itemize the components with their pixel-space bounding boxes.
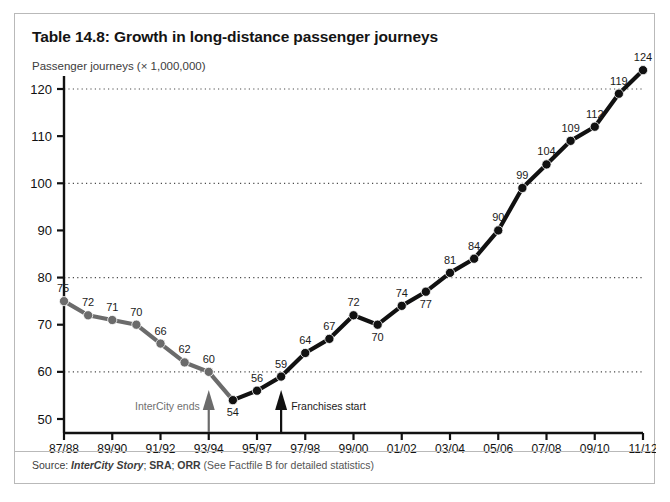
data-point[interactable] (132, 320, 141, 329)
x-tick-label-01/02: 01/02 (387, 442, 417, 456)
x-tick-label-03/04: 03/04 (435, 442, 465, 456)
data-point[interactable] (542, 160, 551, 169)
data-point[interactable] (494, 226, 503, 235)
data-point-label: 66 (154, 325, 166, 337)
x-tick-label-87/88: 87/88 (49, 442, 79, 456)
data-point-label: 77 (420, 298, 432, 310)
y-tick-label-90: 90 (38, 223, 52, 238)
data-point-label: 62 (179, 343, 191, 355)
data-point-label: 72 (82, 296, 94, 308)
data-point-label: 81 (444, 254, 456, 266)
data-point[interactable] (470, 254, 479, 263)
data-point-label: 124 (634, 51, 652, 63)
source-parenthetical: (See Factfile B for detailed statistics) (201, 459, 374, 471)
data-point-label: 72 (347, 296, 359, 308)
data-point-label: 109 (561, 122, 579, 134)
data-point-label: 56 (251, 372, 263, 384)
line-chart: 506070809010011012087/8889/9091/9293/949… (15, 14, 656, 485)
x-tick-label-91/92: 91/92 (145, 442, 175, 456)
data-point-label: 59 (275, 358, 287, 370)
data-point-label: 99 (516, 169, 528, 181)
data-point-label: 71 (106, 301, 118, 313)
y-tick-label-60: 60 (38, 364, 52, 379)
data-point-label: 90 (492, 211, 504, 223)
data-point[interactable] (445, 268, 454, 277)
chart-card: Table 14.8: Growth in long-distance pass… (14, 13, 655, 484)
y-tick-label-110: 110 (31, 129, 52, 144)
data-point[interactable] (277, 372, 286, 381)
data-point[interactable] (397, 301, 406, 310)
y-tick-label-120: 120 (30, 82, 52, 97)
source-org-orr: ORR (177, 459, 200, 471)
annotation-intercity-ends-label: InterCity ends (135, 400, 200, 412)
data-point[interactable] (421, 287, 430, 296)
arrow-intercity-ends (203, 390, 215, 432)
data-point-label: 70 (372, 331, 384, 343)
x-tick-label-99/00: 99/00 (338, 442, 368, 456)
y-tick-label-50: 50 (38, 412, 52, 427)
data-point-label: 75 (57, 282, 69, 294)
data-point[interactable] (59, 297, 68, 306)
data-point[interactable] (108, 315, 117, 324)
data-point[interactable] (518, 183, 527, 192)
data-point-label: 119 (610, 75, 628, 87)
data-point[interactable] (614, 89, 623, 98)
data-point-label: 54 (227, 406, 239, 418)
data-point[interactable] (325, 334, 334, 343)
y-tick-label-100: 100 (30, 176, 52, 191)
x-tick-label-07/08: 07/08 (531, 442, 561, 456)
data-point[interactable] (228, 396, 237, 405)
data-point[interactable] (252, 386, 261, 395)
data-point-label: 104 (537, 145, 555, 157)
arrow-intercity-ends-head (203, 390, 215, 410)
data-point[interactable] (204, 367, 213, 376)
footer-divider (15, 451, 654, 452)
series-line-franchise (233, 70, 643, 400)
annotation-franchises-start-label: Franchises start (291, 400, 366, 412)
x-tick-label-97/98: 97/98 (290, 442, 320, 456)
data-point-label: 60 (203, 353, 215, 365)
x-tick-label-89/90: 89/90 (97, 442, 127, 456)
data-point[interactable] (349, 311, 358, 320)
data-point[interactable] (638, 66, 647, 75)
y-tick-label-70: 70 (38, 317, 52, 332)
source-title: InterCity Story (71, 459, 143, 471)
data-point[interactable] (566, 136, 575, 145)
arrow-franchises-start-head (275, 390, 287, 410)
data-point-label: 70 (130, 306, 142, 318)
data-point-label: 74 (396, 287, 408, 299)
data-point[interactable] (84, 311, 93, 320)
y-tick-label-80: 80 (38, 270, 52, 285)
data-point[interactable] (590, 122, 599, 131)
x-tick-label-95/97: 95/97 (242, 442, 272, 456)
x-tick-label-93/94: 93/94 (194, 442, 224, 456)
data-point[interactable] (373, 320, 382, 329)
data-point-label: 64 (299, 334, 311, 346)
x-tick-label-05/06: 05/06 (483, 442, 513, 456)
source-note: Source: InterCity Story; SRA; ORR (See F… (32, 459, 374, 471)
x-tick-label-09/10: 09/10 (580, 442, 610, 456)
data-point[interactable] (301, 348, 310, 357)
x-tick-label-11/12: 11/12 (628, 442, 656, 456)
data-point-label: 67 (323, 320, 335, 332)
data-point[interactable] (156, 339, 165, 348)
source-org-sra: SRA (149, 459, 171, 471)
data-point-label: 112 (586, 108, 604, 120)
data-point-label: 84 (468, 240, 480, 252)
arrow-franchises-start (275, 390, 287, 432)
source-prefix: Source: (32, 459, 71, 471)
data-point[interactable] (180, 358, 189, 367)
